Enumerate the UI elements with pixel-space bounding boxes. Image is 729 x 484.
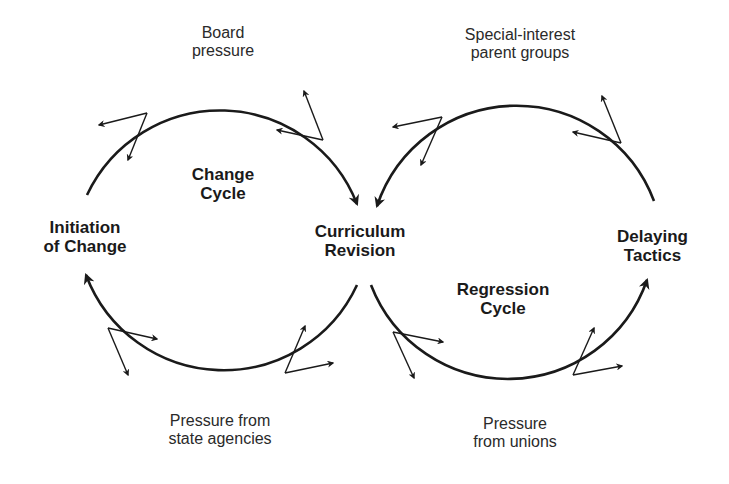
force-arrow-icon — [573, 328, 594, 375]
label-line: Board — [168, 24, 278, 42]
force-arrow-icon — [99, 113, 147, 125]
force-arrow-icon — [128, 113, 147, 160]
label-line: Change — [168, 165, 278, 184]
force-arrow-icon — [573, 132, 621, 143]
label-line: Curriculum — [295, 222, 425, 241]
label-line: Revision — [295, 241, 425, 260]
label-line: state agencies — [140, 430, 300, 448]
force-arrow-icon — [285, 363, 333, 373]
label-line: Regression — [438, 280, 568, 299]
force-arrow-icon — [285, 326, 305, 373]
label-line: Initiation — [20, 218, 150, 237]
label-line: Special-interest — [420, 26, 620, 44]
force-arrow-icon — [393, 332, 414, 378]
label-line: Tactics — [590, 246, 715, 265]
force-arrow-icon — [573, 366, 622, 375]
label-line: of Change — [20, 237, 150, 256]
force-arrow-icon — [421, 117, 442, 165]
label-line: parent groups — [420, 44, 620, 62]
force-arrow-icon — [393, 117, 442, 127]
force-arrow-icon — [393, 332, 443, 342]
label-line: from unions — [450, 433, 580, 451]
label-line: Pressure from — [140, 412, 300, 430]
label-state-agencies: Pressure from state agencies — [140, 412, 300, 448]
force-arrow-icon — [304, 91, 323, 140]
node-delaying-tactics: Delaying Tactics — [590, 227, 715, 265]
label-line: Pressure — [450, 415, 580, 433]
label-unions: Pressure from unions — [450, 415, 580, 451]
label-line: Cycle — [168, 184, 278, 203]
label-line: Cycle — [438, 299, 568, 318]
node-curriculum-revision: Curriculum Revision — [295, 222, 425, 260]
label-board-pressure: Board pressure — [168, 24, 278, 60]
label-change-cycle: Change Cycle — [168, 165, 278, 203]
label-line: Delaying — [590, 227, 715, 246]
change-cycle-bottom-arc — [86, 275, 357, 370]
label-regression-cycle: Regression Cycle — [438, 280, 568, 318]
label-line: pressure — [168, 42, 278, 60]
force-arrow-icon — [277, 130, 323, 140]
label-parent-groups: Special-interest parent groups — [420, 26, 620, 62]
force-arrow-icon — [108, 328, 128, 375]
node-initiation-of-change: Initiation of Change — [20, 218, 150, 256]
